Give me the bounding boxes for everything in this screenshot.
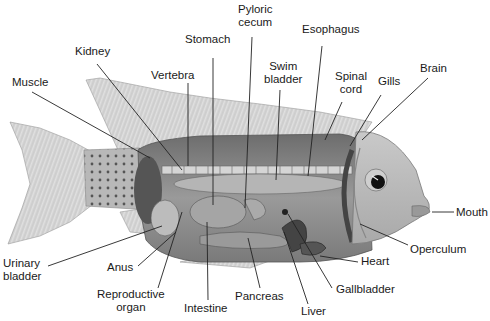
label-esophagus: Esophagus (302, 23, 360, 36)
label-anus: Anus (107, 261, 133, 274)
label-intestine: Intestine (184, 302, 227, 315)
urinary-bladder (151, 200, 179, 236)
fish-head (352, 132, 429, 244)
label-liver: Liver (301, 305, 326, 318)
label-muscle: Muscle (12, 76, 48, 89)
label-spinal-cord: Spinal cord (335, 70, 367, 96)
vertebral-column (162, 166, 352, 174)
label-kidney: Kidney (75, 45, 110, 58)
fish-lips (412, 206, 430, 217)
label-pancreas: Pancreas (235, 290, 284, 303)
label-vertebra: Vertebra (151, 69, 194, 82)
swim-bladder (174, 174, 346, 194)
label-swim-bladder: Swim bladder (264, 60, 302, 86)
label-stomach: Stomach (185, 33, 230, 46)
fish-anatomy-illustration (0, 0, 490, 321)
label-gallbladder: Gallbladder (336, 283, 395, 296)
label-urinary-bladder: Urinary bladder (3, 257, 41, 283)
label-mouth: Mouth (456, 206, 488, 219)
gallbladder (282, 209, 288, 215)
label-gills: Gills (378, 75, 400, 88)
label-operculum: Operculum (410, 243, 466, 256)
stomach (190, 196, 246, 228)
label-pyloric-cecum: Pyloric cecum (238, 3, 273, 29)
label-reproductive-organ: Reproductive organ (97, 288, 165, 314)
tail-fin (8, 122, 92, 244)
label-heart: Heart (361, 255, 389, 268)
label-brain: Brain (420, 62, 447, 75)
